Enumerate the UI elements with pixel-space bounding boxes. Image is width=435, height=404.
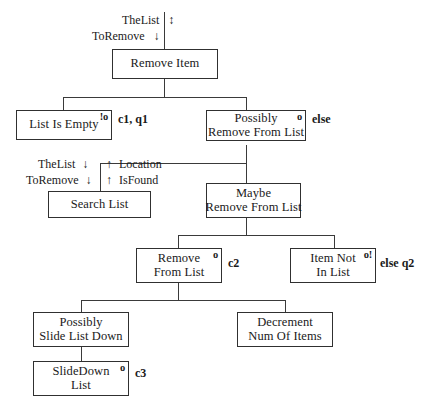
node-maybe-remove-from-list[interactable]: Maybe Remove From List bbox=[206, 183, 301, 218]
node-possibly-slide-list-down-line-0: Possibly bbox=[59, 316, 102, 330]
node-list-is-empty[interactable]: List Is Empty !o bbox=[16, 110, 112, 140]
operation-marker-icon-remove-from-list: o bbox=[213, 250, 218, 261]
connector-to-maybe-remove bbox=[246, 163, 247, 183]
connector-to-item-not-in-list bbox=[334, 235, 335, 248]
flow-annotation-search-in-1: TheList ↓ bbox=[38, 157, 88, 172]
node-search-list[interactable]: Search List bbox=[48, 191, 151, 218]
node-possibly-slide-list-down-line-1: Slide List Down bbox=[39, 330, 122, 344]
flow-label-isfound: IsFound bbox=[119, 173, 158, 187]
flow-annotation-search-out-2: ↑ IsFound bbox=[106, 173, 158, 188]
node-item-not-in-list[interactable]: Item Not In List o! bbox=[290, 248, 376, 283]
node-remove-from-list-line-0: Remove bbox=[158, 252, 200, 266]
node-slide-down-list-line-0: SlideDown bbox=[52, 365, 109, 379]
node-list-is-empty-line-0: List Is Empty bbox=[29, 118, 98, 132]
structure-chart: TheList ↕ ToRemove ↓ Remove Item List Is… bbox=[0, 0, 435, 404]
flow-label-search-thelist: TheList bbox=[38, 157, 75, 171]
condition-label-c3: c3 bbox=[135, 366, 146, 381]
operation-marker-icon-possibly-remove: o bbox=[297, 112, 302, 123]
node-maybe-remove-from-list-line-1: Remove From List bbox=[205, 201, 301, 215]
connector-to-slide-down-list bbox=[81, 347, 82, 361]
down-arrow-icon-search-toremove: ↓ bbox=[85, 173, 91, 187]
flow-annotation-toremove-in: ToRemove ↓ bbox=[92, 29, 159, 44]
connector-level5-bus bbox=[81, 300, 285, 301]
node-remove-item[interactable]: Remove Item bbox=[112, 49, 218, 79]
flow-label-thelist: TheList bbox=[122, 13, 159, 27]
node-maybe-remove-from-list-line-0: Maybe bbox=[236, 187, 271, 201]
connector-to-list-is-empty bbox=[63, 97, 64, 110]
flow-annotation-search-out-1: ↑ Location bbox=[106, 157, 162, 172]
node-remove-from-list[interactable]: Remove From List o bbox=[136, 248, 222, 283]
up-arrow-icon-location: ↑ bbox=[106, 157, 112, 171]
connector-to-possibly-remove bbox=[246, 97, 247, 110]
flow-label-location: Location bbox=[119, 157, 162, 171]
connector-to-remove-from-list bbox=[178, 235, 179, 248]
flow-annotation-thelist-in: TheList ↕ bbox=[122, 13, 174, 28]
connector-root-down bbox=[164, 79, 165, 97]
node-slide-down-list[interactable]: SlideDown List o bbox=[33, 361, 129, 396]
condition-label-else-q2: else q2 bbox=[380, 256, 414, 271]
connector-to-possibly-slide bbox=[81, 300, 82, 312]
connector-possibly-remove-down bbox=[246, 145, 247, 163]
node-decrement-num-of-items-line-1: Num Of Items bbox=[248, 330, 321, 344]
flow-label-search-toremove: ToRemove bbox=[26, 173, 78, 187]
flow-label-toremove: ToRemove bbox=[92, 29, 144, 43]
connector-remove-from-list-down bbox=[178, 283, 179, 300]
operation-marker-icon-list-is-empty: !o bbox=[100, 112, 108, 123]
down-arrow-icon-search-thelist: ↓ bbox=[82, 157, 88, 171]
connector-level4-bus bbox=[178, 235, 334, 236]
node-possibly-slide-list-down[interactable]: Possibly Slide List Down bbox=[33, 312, 129, 347]
operation-marker-icon-item-not-in-list: o! bbox=[364, 250, 372, 261]
node-item-not-in-list-line-0: Item Not bbox=[310, 252, 356, 266]
down-arrow-icon: ↓ bbox=[153, 29, 159, 43]
connector-to-decrement-num bbox=[285, 300, 286, 312]
node-possibly-remove-from-list[interactable]: Possibly Remove From List o bbox=[206, 110, 306, 141]
node-possibly-remove-from-list-line-1: Remove From List bbox=[208, 126, 304, 140]
condition-label-else: else bbox=[312, 112, 331, 127]
node-decrement-num-of-items-line-0: Decrement bbox=[257, 316, 313, 330]
condition-label-c1-q1: c1, q1 bbox=[118, 112, 148, 127]
connector-maybe-remove-down bbox=[246, 218, 247, 235]
node-search-list-line-0: Search List bbox=[71, 198, 129, 212]
flow-annotation-search-in-2: ToRemove ↓ bbox=[26, 173, 91, 188]
connector-level2-bus bbox=[63, 97, 246, 98]
condition-label-c2: c2 bbox=[228, 256, 239, 271]
node-remove-item-line-0: Remove Item bbox=[131, 57, 200, 71]
operation-marker-icon-slide-down-list: o bbox=[120, 363, 125, 374]
node-slide-down-list-line-1: List bbox=[71, 379, 91, 393]
updown-arrow-icon: ↕ bbox=[168, 13, 174, 27]
node-decrement-num-of-items[interactable]: Decrement Num Of Items bbox=[237, 312, 333, 347]
node-remove-from-list-line-1: From List bbox=[154, 266, 205, 280]
connector-to-search-list bbox=[100, 163, 101, 191]
node-possibly-remove-from-list-line-0: Possibly bbox=[234, 112, 277, 126]
node-item-not-in-list-line-1: In List bbox=[316, 266, 350, 280]
up-arrow-icon-isfound: ↑ bbox=[106, 173, 112, 187]
